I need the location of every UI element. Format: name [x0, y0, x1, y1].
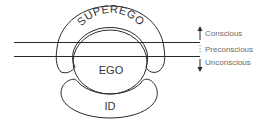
up-arrow-icon — [198, 26, 203, 40]
ego-circle — [73, 30, 147, 94]
unconscious-label: Unconscious — [205, 58, 251, 67]
psyche-diagram: SUPEREGO EGO ID Conscious Preconscious U… — [0, 0, 271, 125]
preconscious-label: Preconscious — [205, 45, 253, 54]
down-arrow-icon — [198, 59, 203, 72]
ego-label: EGO — [99, 64, 124, 76]
superego-label: SUPEREGO — [75, 3, 148, 28]
id-shape — [61, 79, 157, 118]
id-label: ID — [105, 100, 116, 112]
conscious-label: Conscious — [205, 29, 242, 38]
